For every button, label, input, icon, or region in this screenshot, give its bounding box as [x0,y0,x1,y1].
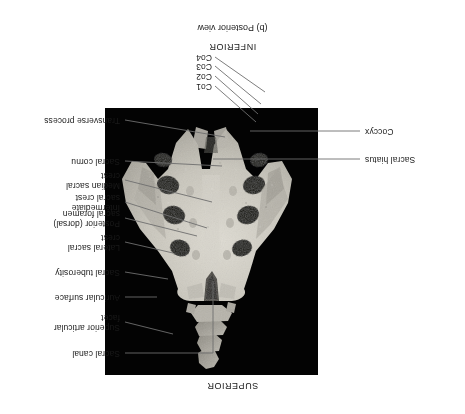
label-sacral-canal: Sacral canal [2,349,120,359]
label-co2: Co2 [196,72,212,82]
label-auricular-surface: Auricular surface [2,293,120,303]
label-coccyx: Coccyx [365,127,455,137]
label-co4: Co4 [196,53,212,63]
leader-superior-articular-facet [125,322,173,334]
leader-co2 [215,76,258,114]
label-median-sacral-crest: Median sacral crest [2,171,120,190]
rotated-figure-content: Co1 Co2 Co3 Co4 Coccyx Sacral hiatus Tra… [0,0,465,414]
leader-sacral-tuberosity [125,272,168,279]
leader-co1 [215,86,256,122]
label-sacral-tuberosity: Sacral tuberosity [2,268,120,278]
leader-intermediate-sacral-crest [125,202,207,228]
leader-posterior-sacral-foramen [125,218,197,236]
figure-caption: (b) Posterior view [0,23,465,33]
label-co1: Co1 [196,82,212,92]
label-posterior-sacral-foramen: Posterior (dorsal) sacral foramen [2,209,120,228]
label-sacral-cornu: Sacral cornu [2,157,120,167]
label-superior-articular-facet: Superior articular facet [2,313,120,332]
label-sacral-hiatus: Sacral hiatus [365,155,455,165]
leader-median-sacral-crest [125,180,212,202]
anatomy-figure: Co1 Co2 Co3 Co4 Coccyx Sacral hiatus Tra… [0,0,465,414]
leader-co3 [215,66,261,104]
orientation-inferior: INFERIOR [0,42,465,52]
leader-sacral-cornu [125,161,222,166]
label-lateral-sacral-crest: Lateral sacral crest [2,233,120,252]
orientation-superior: SUPERIOR [0,381,465,391]
leader-transverse-process [125,120,225,137]
label-transverse-process: Transverse process [2,116,120,126]
leader-lateral-sacral-crest [125,242,173,253]
